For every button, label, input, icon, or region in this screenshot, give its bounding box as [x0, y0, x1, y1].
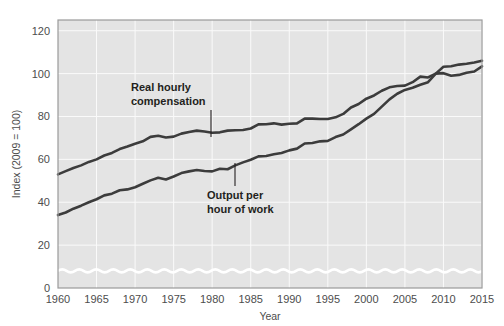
y-tick-label: 80: [38, 110, 50, 122]
y-tick-label: 40: [38, 196, 50, 208]
chart-figure: 020406080100120 196019651970197519801985…: [0, 0, 504, 326]
y-tick-label: 100: [32, 68, 50, 80]
annotation-lower-line1: Output per: [207, 189, 264, 201]
x-tick-label: 1985: [238, 293, 262, 305]
x-tick-label: 1970: [123, 293, 147, 305]
x-tick-label: 1995: [316, 293, 340, 305]
y-axis-title: Index (2009 = 100): [10, 110, 22, 198]
annotation-upper-line2: compensation: [131, 95, 206, 107]
x-tick-label: 1980: [200, 293, 224, 305]
x-tick-label: 1965: [84, 293, 108, 305]
x-tick-label: 1975: [161, 293, 185, 305]
y-axis-tick-labels: 020406080100120: [32, 25, 50, 294]
x-tick-label: 2005: [393, 293, 417, 305]
x-tick-label: 2015: [470, 293, 494, 305]
y-tick-label: 60: [38, 153, 50, 165]
x-tick-label: 2000: [354, 293, 378, 305]
x-tick-label: 1990: [277, 293, 301, 305]
x-tick-label: 2010: [431, 293, 455, 305]
x-axis-title: Year: [259, 310, 281, 322]
x-axis-tick-labels: 1960196519701975198019851990199520002005…: [46, 293, 494, 305]
y-tick-label: 120: [32, 25, 50, 37]
line-chart: 020406080100120 196019651970197519801985…: [0, 0, 504, 326]
annotation-upper-line1: Real hourly: [131, 81, 192, 93]
annotation-lower-line2: hour of work: [207, 203, 274, 215]
x-tick-label: 1960: [46, 293, 70, 305]
y-tick-label: 20: [38, 239, 50, 251]
